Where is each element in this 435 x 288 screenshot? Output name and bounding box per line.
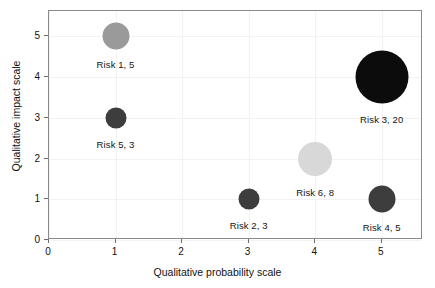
x-tick-mark-0	[48, 239, 49, 243]
bubble-label-risk-2: Risk 2, 3	[230, 220, 268, 231]
bubble-label-risk-1: Risk 1, 5	[97, 59, 135, 70]
bubble-label-risk-3: Risk 3, 20	[360, 114, 403, 125]
bubble-risk-4[interactable]	[368, 186, 395, 213]
y-axis-title: Qualitative impact scale	[10, 36, 22, 196]
x-axis-title: Qualitative probability scale	[0, 266, 435, 278]
bubble-label-risk-6: Risk 6, 8	[296, 187, 334, 198]
gridline-vertical-2	[182, 11, 183, 238]
bubble-risk-5[interactable]	[105, 107, 126, 128]
gridline-horizontal-0	[49, 240, 421, 241]
x-tick-label-2: 2	[178, 246, 184, 257]
bubble-risk-3[interactable]	[355, 51, 408, 104]
y-tick-label-0: 0	[14, 234, 40, 245]
y-tick-mark-3	[44, 117, 48, 118]
x-tick-mark-1	[115, 239, 116, 243]
x-tick-label-1: 1	[112, 246, 118, 257]
y-tick-mark-2	[44, 158, 48, 159]
bubble-label-risk-5: Risk 5, 3	[97, 139, 135, 150]
x-tick-label-5: 5	[378, 246, 384, 257]
y-tick-mark-5	[44, 35, 48, 36]
x-tick-label-0: 0	[45, 246, 51, 257]
y-tick-mark-1	[44, 198, 48, 199]
x-tick-mark-4	[314, 239, 315, 243]
gridline-horizontal-2	[49, 159, 421, 160]
bubble-chart: Risk 1, 5Risk 5, 3Risk 3, 20Risk 6, 8Ris…	[0, 0, 435, 288]
bubble-risk-2[interactable]	[238, 189, 259, 210]
y-tick-mark-0	[44, 239, 48, 240]
x-tick-label-3: 3	[245, 246, 251, 257]
bubble-label-risk-4: Risk 4, 5	[363, 222, 401, 233]
plot-area: Risk 1, 5Risk 5, 3Risk 3, 20Risk 6, 8Ris…	[48, 10, 422, 239]
x-tick-label-4: 4	[311, 246, 317, 257]
y-tick-mark-4	[44, 76, 48, 77]
gridline-horizontal-1	[49, 199, 421, 200]
x-tick-mark-5	[381, 239, 382, 243]
bubble-risk-1[interactable]	[102, 23, 129, 50]
gridline-vertical-4	[315, 11, 316, 238]
x-tick-mark-2	[181, 239, 182, 243]
x-tick-mark-3	[248, 239, 249, 243]
gridline-vertical-0	[49, 11, 50, 238]
bubble-risk-6[interactable]	[298, 142, 332, 176]
